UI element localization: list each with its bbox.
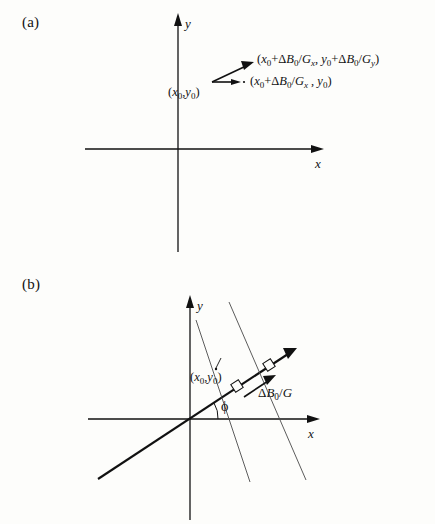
panel-a: (a) y x (x0,y0) (x0+ΔB0/Gx, y0+ΔB0/Gy) <box>0 0 435 262</box>
figure-container: (a) y x (x0,y0) (x0+ΔB0/Gx, y0+ΔB0/Gy) <box>0 0 435 524</box>
horizontal-shift-vector-label: (x0+ΔB0/Gx , y0) <box>250 75 332 90</box>
offset-label: ΔB0/G <box>258 386 292 402</box>
y-axis-arrowhead-b <box>186 295 194 308</box>
y-axis-label-b: y <box>197 298 203 314</box>
diagonal-shift-vector-shaft <box>212 66 246 82</box>
gradient-axis-arrowhead <box>283 348 297 359</box>
point-label-a: (x0,y0) <box>168 86 200 101</box>
phi-angle-label: ϕ <box>221 399 228 415</box>
panel-b: (b) <box>0 262 435 524</box>
x-axis-arrowhead-a <box>311 145 324 153</box>
panel-b-graphic <box>0 262 435 524</box>
x-axis-arrowhead-b <box>307 415 320 423</box>
point-label-b: (x0,y0) <box>190 371 222 386</box>
horizontal-shift-vector-head <box>231 79 241 85</box>
y-axis-label-a: y <box>185 16 191 32</box>
x-axis-label-a: x <box>315 156 321 172</box>
point-leader-line <box>216 358 221 368</box>
panel-a-graphic <box>0 0 435 262</box>
x-axis-label-b: x <box>308 426 314 442</box>
diagonal-shift-vector-head <box>241 61 254 70</box>
y-axis-arrowhead-a <box>174 13 182 26</box>
horizontal-shift-vector-endpoint-dot <box>243 81 245 83</box>
diagonal-shift-vector-label: (x0+ΔB0/Gx, y0+ΔB0/Gy) <box>257 53 379 68</box>
phi-angle-arc <box>214 403 218 419</box>
